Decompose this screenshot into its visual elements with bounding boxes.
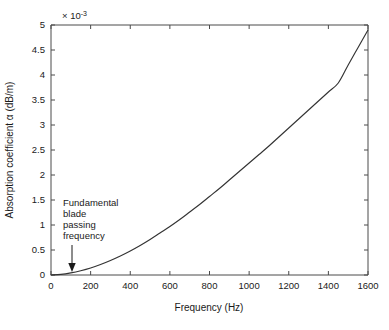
- annotation-line-1: blade: [63, 208, 86, 219]
- y-tick-label-1: 1: [40, 219, 45, 230]
- y-tick-label-3: 3: [40, 119, 45, 130]
- y-axis-tick-labels: 00.511.522.533.544.55: [32, 19, 45, 280]
- x-tick-label-200: 200: [83, 280, 99, 291]
- x-tick-label-1600: 1600: [357, 280, 378, 291]
- x-axis-tick-labels: 02004006008001000120014001600: [48, 280, 378, 291]
- y-tick-label-2.5: 2.5: [32, 144, 45, 155]
- x-tick-label-800: 800: [202, 280, 218, 291]
- x-tick-label-1000: 1000: [239, 280, 260, 291]
- annotation-line-0: Fundamental: [63, 197, 118, 208]
- y-axis-exponent-label: × 10-3: [62, 10, 87, 22]
- x-tick-label-600: 600: [162, 280, 178, 291]
- x-tick-label-400: 400: [122, 280, 138, 291]
- x-tick-label-0: 0: [48, 280, 53, 291]
- x-tick-label-1400: 1400: [318, 280, 339, 291]
- y-tick-label-2: 2: [40, 169, 45, 180]
- y-tick-label-4: 4: [40, 69, 45, 80]
- y-tick-label-5: 5: [40, 19, 45, 30]
- y-tick-label-1.5: 1.5: [32, 194, 45, 205]
- y-tick-label-3.5: 3.5: [32, 94, 45, 105]
- annotation-line-2: passing: [63, 219, 96, 230]
- x-tick-label-1200: 1200: [278, 280, 299, 291]
- x-axis-title: Frequency (Hz): [175, 302, 244, 313]
- annotation-line-3: frequency: [63, 230, 105, 241]
- y-axis-title: Absorption coefficient α (dB/m): [4, 82, 15, 219]
- figure-container: 02004006008001000120014001600 00.511.522…: [0, 0, 389, 330]
- absorption-coefficient-chart: 02004006008001000120014001600 00.511.522…: [0, 0, 389, 330]
- y-tick-label-0: 0: [40, 269, 45, 280]
- y-tick-label-4.5: 4.5: [32, 44, 45, 55]
- y-tick-label-0.5: 0.5: [32, 244, 45, 255]
